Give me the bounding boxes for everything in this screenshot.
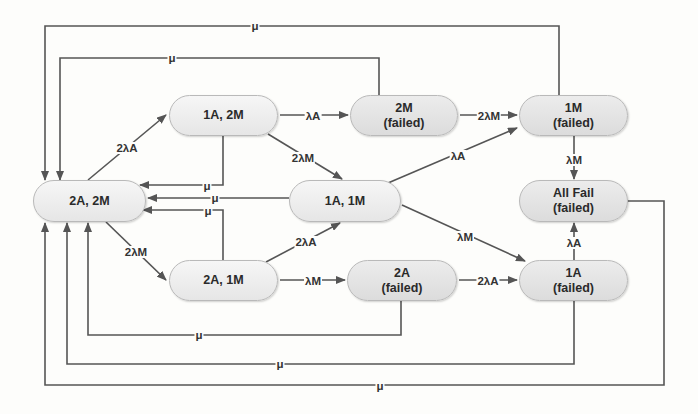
state-node-1a-2m: 1A, 2M bbox=[169, 95, 278, 136]
edge-label-2lm: 2λM bbox=[477, 110, 501, 122]
edge-label-2lm: 2λM bbox=[124, 246, 148, 258]
state-node-2a-1m: 2A, 1M bbox=[169, 260, 278, 301]
state-node-1a-1m: 1A, 1M bbox=[289, 180, 401, 222]
node-label: 2A, 2M bbox=[69, 194, 109, 209]
node-label: 2M bbox=[395, 101, 412, 116]
edge-label-mu: μ bbox=[250, 20, 259, 32]
edge-label-lm: λM bbox=[456, 231, 474, 243]
node-status: (failed) bbox=[384, 116, 425, 131]
node-label: 1A bbox=[566, 266, 582, 281]
node-label: All Fail bbox=[553, 186, 594, 201]
node-label: 1M bbox=[565, 101, 582, 116]
state-node-2a-2m: 2A, 2M bbox=[33, 180, 146, 222]
edge-label-mu: μ bbox=[202, 180, 211, 192]
node-status: (failed) bbox=[553, 281, 594, 296]
edge-label-lm: λM bbox=[304, 275, 322, 287]
node-status: (failed) bbox=[553, 201, 594, 216]
edge-label-la: λA bbox=[566, 237, 583, 249]
edge-label-lm: λM bbox=[565, 154, 583, 166]
edge-label-mu: μ bbox=[194, 329, 203, 341]
node-status: (failed) bbox=[382, 281, 423, 296]
edge-2a1m-to-2a2m bbox=[143, 210, 223, 260]
edge-label-2la: 2λA bbox=[476, 275, 499, 287]
state-node-1a-failed: 1A (failed) bbox=[519, 260, 628, 301]
edge-label-mu: μ bbox=[203, 205, 212, 217]
node-label: 1A, 1M bbox=[325, 194, 365, 209]
state-node-2a-failed: 2A (failed) bbox=[347, 260, 457, 301]
node-label: 2A, 1M bbox=[203, 273, 243, 288]
edge-label-2la: 2λA bbox=[294, 236, 317, 248]
edge-label-2lm: 2λM bbox=[291, 152, 315, 164]
edge-1a2m-to-2a2m bbox=[140, 136, 223, 185]
state-node-1m-failed: 1M (failed) bbox=[519, 95, 628, 136]
state-node-all-fail: All Fail (failed) bbox=[519, 180, 628, 222]
markov-diagram: 2A, 2M 1A, 2M 2A, 1M 1A, 1M 2M (failed) … bbox=[0, 0, 698, 414]
edge-label-la: λA bbox=[450, 150, 467, 162]
edge-label-2la: 2λA bbox=[115, 142, 138, 154]
edge-label-la: λA bbox=[305, 110, 322, 122]
node-label: 2A bbox=[394, 266, 410, 281]
edge-label-mu: μ bbox=[210, 192, 219, 204]
edge-label-mu: μ bbox=[375, 380, 384, 392]
node-status: (failed) bbox=[553, 116, 594, 131]
edge-label-mu: μ bbox=[275, 358, 284, 370]
state-node-2m-failed: 2M (failed) bbox=[350, 95, 458, 136]
node-label: 1A, 2M bbox=[203, 108, 243, 123]
edge-label-mu: μ bbox=[167, 52, 176, 64]
edge-1a-failed-to-2a2m bbox=[67, 223, 574, 364]
